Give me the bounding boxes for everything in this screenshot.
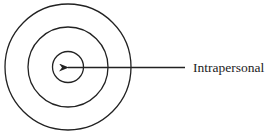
intrapersonal-label: Intrapersonal — [193, 60, 264, 75]
concentric-diagram: Intrapersonal — [0, 0, 280, 135]
